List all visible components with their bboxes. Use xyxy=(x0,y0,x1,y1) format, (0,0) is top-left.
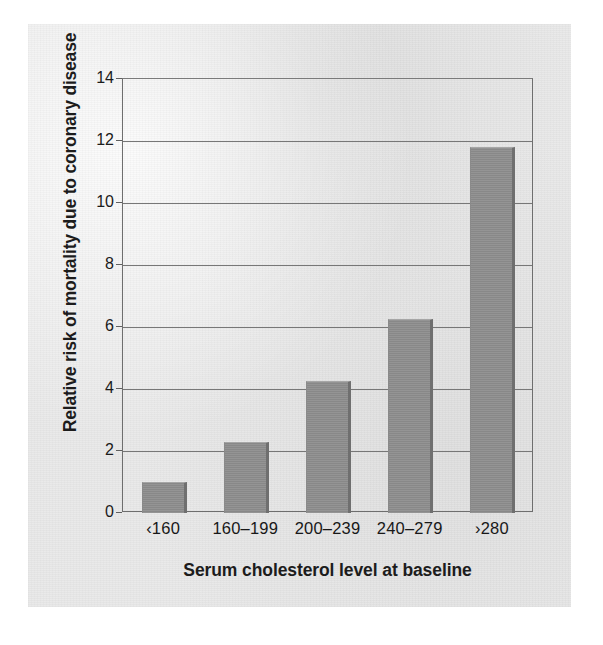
x-tick-label: ‹160 xyxy=(146,519,180,538)
bar xyxy=(388,319,433,513)
y-tick-label-2: 2 xyxy=(70,441,114,459)
bar xyxy=(306,381,351,513)
plot-area xyxy=(122,78,533,512)
gridline-12 xyxy=(123,141,532,142)
y-tick-label-8: 8 xyxy=(70,255,114,273)
bar xyxy=(224,442,269,513)
y-tick-label-14: 14 xyxy=(70,69,114,87)
y-tick-label-12: 12 xyxy=(70,131,114,149)
x-tick-label: 240–279 xyxy=(377,519,443,538)
y-tick-label-6: 6 xyxy=(70,317,114,335)
bar xyxy=(142,482,187,513)
figure-canvas: Relative risk of mortality due to corona… xyxy=(0,0,603,645)
y-tick-mark-0 xyxy=(116,512,122,513)
bar xyxy=(470,147,515,513)
x-tick-label: 200–239 xyxy=(295,519,361,538)
y-tick-label-0: 0 xyxy=(70,503,114,521)
x-tick-label: 160–199 xyxy=(212,519,278,538)
y-tick-label-10: 10 xyxy=(70,193,114,211)
y-tick-label-4: 4 xyxy=(70,379,114,397)
x-tick-label: ›280 xyxy=(475,519,509,538)
x-axis-title: Serum cholesterol level at baseline xyxy=(122,560,533,581)
